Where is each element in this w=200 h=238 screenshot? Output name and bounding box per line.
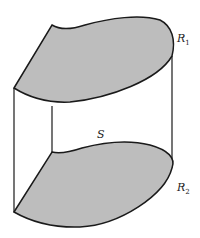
label-s: S bbox=[97, 128, 105, 141]
label-r1: R1 bbox=[176, 32, 190, 47]
region-r2 bbox=[14, 142, 173, 227]
cylinder-diagram: R1 R2 S bbox=[0, 0, 200, 238]
region-r1 bbox=[14, 17, 174, 102]
label-r2: R2 bbox=[176, 181, 190, 196]
